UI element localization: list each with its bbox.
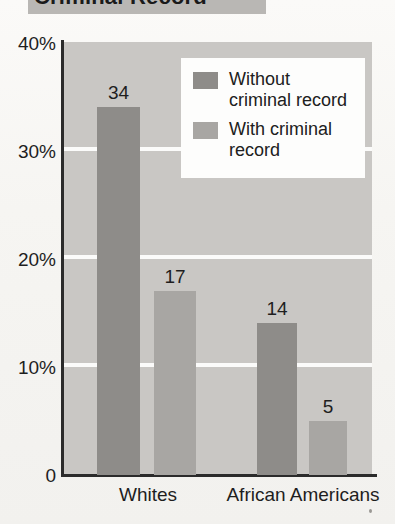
- legend-label-without-criminal-record: Without criminal record: [229, 69, 347, 111]
- bar-value-14: 14: [257, 298, 297, 320]
- chart-legend: Without criminal record With criminal re…: [181, 58, 365, 178]
- scan-artifact-speck: [369, 509, 372, 513]
- bar-chart: 40% 30% 20% 10% 0 34 17 14 5 Whites Afri…: [0, 0, 395, 524]
- legend-item-with-criminal-record[interactable]: With criminal record: [193, 119, 332, 161]
- legend-swatch-dark-icon: [193, 72, 218, 89]
- bar-value-17: 17: [154, 266, 196, 288]
- page-title: Criminal Record: [34, 0, 207, 10]
- chart-title-banner: Criminal Record: [28, 0, 266, 14]
- legend-label-with-criminal-record: With criminal record: [229, 119, 332, 161]
- x-label-african-americans: African Americans: [213, 484, 393, 506]
- legend-swatch-light-icon: [193, 122, 218, 139]
- x-label-whites: Whites: [83, 484, 213, 506]
- legend-item-without-criminal-record[interactable]: Without criminal record: [193, 69, 347, 111]
- bar-value-34: 34: [97, 82, 140, 104]
- bar-value-5: 5: [309, 396, 347, 418]
